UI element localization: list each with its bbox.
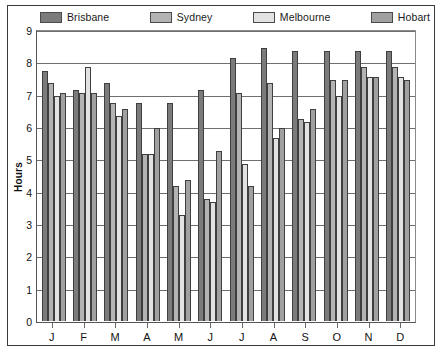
bar-hobart-a-3[interactable] <box>154 128 160 321</box>
bar-group <box>195 32 226 321</box>
x-axis-label-february: F <box>68 330 100 346</box>
bar-hobart-j-5[interactable] <box>216 151 222 321</box>
x-tick-mark <box>369 323 370 328</box>
chart-legend: Brisbane Sydney Melbourne Hobart <box>40 9 430 25</box>
bar-hobart-f-1[interactable] <box>91 93 97 321</box>
legend-label-sydney: Sydney <box>177 12 213 23</box>
x-tick-group <box>384 323 416 329</box>
legend-swatch-sydney <box>150 12 172 23</box>
bar-group <box>257 32 288 321</box>
bar-group <box>320 32 351 321</box>
x-axis-label-november: N <box>353 330 385 346</box>
x-axis-labels: JFMAMJJASOND <box>36 330 416 346</box>
x-axis-label-december: D <box>384 330 416 346</box>
legend-item-brisbane[interactable]: Brisbane <box>40 12 109 23</box>
legend-swatch-melbourne <box>253 12 275 23</box>
x-axis-label-september: S <box>289 330 321 346</box>
bar-group <box>38 32 69 321</box>
bars-layer <box>38 32 414 321</box>
x-tick-group <box>36 323 68 329</box>
x-tick-mark <box>147 323 148 328</box>
bar-hobart-o-9[interactable] <box>342 80 348 321</box>
x-tick-mark <box>305 323 306 328</box>
x-axis-label-april: A <box>131 330 163 346</box>
y-tick-label: 9 <box>26 26 32 37</box>
bar-group <box>351 32 382 321</box>
x-axis-label-january: J <box>36 330 68 346</box>
x-axis-label-august: A <box>258 330 290 346</box>
bar-group <box>69 32 100 321</box>
bar-group <box>383 32 414 321</box>
x-tick-mark <box>274 323 275 328</box>
y-tick-label: 5 <box>26 155 32 166</box>
x-tick-mark <box>242 323 243 328</box>
bar-hobart-j-6[interactable] <box>248 186 254 321</box>
bar-hobart-d-11[interactable] <box>404 80 410 321</box>
x-tick-group <box>321 323 353 329</box>
x-tick-group <box>258 323 290 329</box>
x-axis-label-july: J <box>226 330 258 346</box>
x-axis-label-march: M <box>99 330 131 346</box>
legend-swatch-brisbane <box>40 12 62 23</box>
y-tick-label: 1 <box>26 284 32 295</box>
y-tick-label: 8 <box>26 58 32 69</box>
legend-label-brisbane: Brisbane <box>67 12 109 23</box>
bar-hobart-s-8[interactable] <box>310 109 316 321</box>
x-tick-mark <box>52 323 53 328</box>
x-tick-mark <box>84 323 85 328</box>
x-tick-mark <box>115 323 116 328</box>
legend-label-hobart: Hobart <box>398 12 430 23</box>
bar-hobart-j-0[interactable] <box>60 93 66 321</box>
legend-item-melbourne[interactable]: Melbourne <box>253 12 331 23</box>
x-tick-group <box>289 323 321 329</box>
y-axis-title: Hours <box>13 162 24 192</box>
x-tick-mark <box>400 323 401 328</box>
x-tick-mark <box>210 323 211 328</box>
bar-group <box>289 32 320 321</box>
x-tick-group <box>163 323 195 329</box>
legend-swatch-hobart <box>371 12 393 23</box>
bar-hobart-n-10[interactable] <box>373 77 379 321</box>
y-tick-label: 4 <box>26 187 32 198</box>
plot-area: 0123456789 <box>36 30 416 323</box>
bar-hobart-m-4[interactable] <box>185 180 191 321</box>
y-tick-label: 6 <box>26 123 32 134</box>
y-tick-label: 3 <box>26 220 32 231</box>
bar-hobart-a-7[interactable] <box>279 128 285 321</box>
x-tick-group <box>353 323 385 329</box>
x-axis-label-october: O <box>321 330 353 346</box>
x-tick-group <box>226 323 258 329</box>
x-axis-tick-marks <box>36 323 416 329</box>
bar-group <box>163 32 194 321</box>
x-tick-mark <box>179 323 180 328</box>
x-tick-group <box>194 323 226 329</box>
bar-hobart-m-2[interactable] <box>122 109 128 321</box>
x-axis-label-may: M <box>163 330 195 346</box>
bar-group <box>226 32 257 321</box>
y-tick-label: 0 <box>26 317 32 328</box>
plot-wrapper: 0123456789 <box>36 30 416 323</box>
x-tick-mark <box>337 323 338 328</box>
x-tick-group <box>99 323 131 329</box>
legend-item-sydney[interactable]: Sydney <box>150 12 213 23</box>
bar-group <box>132 32 163 321</box>
legend-label-melbourne: Melbourne <box>280 12 331 23</box>
x-tick-group <box>68 323 100 329</box>
bar-chart-figure: Brisbane Sydney Melbourne Hobart Hours 0… <box>0 0 442 353</box>
x-axis-label-june: J <box>194 330 226 346</box>
y-tick-label: 7 <box>26 90 32 101</box>
y-tick-label: 2 <box>26 252 32 263</box>
bar-group <box>101 32 132 321</box>
legend-item-hobart[interactable]: Hobart <box>371 12 430 23</box>
x-tick-group <box>131 323 163 329</box>
